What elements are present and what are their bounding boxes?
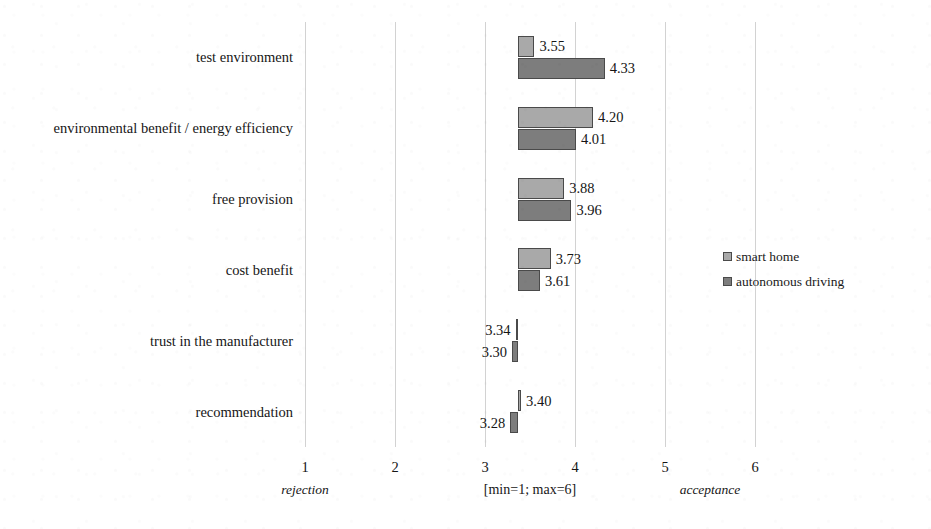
value-label: 3.40 — [526, 394, 551, 409]
bar-autonomous-driving — [518, 129, 576, 150]
legend-swatch-icon — [723, 277, 732, 286]
x-tick-label: 2 — [370, 460, 420, 475]
value-label: 3.73 — [556, 252, 581, 267]
bar-smart-home — [518, 36, 534, 57]
value-label: 3.61 — [545, 274, 570, 289]
x-tick-label: 6 — [730, 460, 780, 475]
value-label: 3.96 — [576, 203, 601, 218]
bar-autonomous-driving — [510, 412, 518, 433]
axis-anchor-rejection: rejection — [245, 483, 365, 497]
legend-label: smart home — [736, 250, 799, 264]
x-tick-label: 4 — [550, 460, 600, 475]
value-label: 4.20 — [598, 110, 623, 125]
axis-range-note: [min=1; max=6] — [440, 483, 620, 497]
bar-autonomous-driving — [518, 200, 571, 221]
gridline-3 — [485, 22, 486, 447]
bar-smart-home — [518, 248, 550, 269]
gridline-2 — [395, 22, 396, 447]
axis-anchor-acceptance: acceptance — [650, 483, 770, 497]
bar-autonomous-driving — [512, 341, 518, 362]
gridline-1 — [305, 22, 306, 447]
chart-legend: smart homeautonomous driving — [723, 250, 844, 299]
value-label: 3.55 — [540, 39, 565, 54]
category-label: environmental benefit / energy efficienc… — [0, 121, 293, 136]
category-label: cost benefit — [0, 263, 293, 278]
bar-smart-home — [518, 107, 593, 128]
value-label: 4.33 — [610, 61, 635, 76]
gridline-4 — [575, 22, 576, 447]
legend-label: autonomous driving — [736, 275, 844, 289]
x-tick-label: 5 — [640, 460, 690, 475]
bar-autonomous-driving — [518, 58, 604, 79]
category-label: free provision — [0, 192, 293, 207]
gridline-5 — [665, 22, 666, 447]
value-label: 3.30 — [0, 345, 507, 360]
legend-swatch-icon — [723, 252, 732, 261]
legend-item[interactable]: smart home — [723, 250, 844, 264]
gridline-6 — [755, 22, 756, 447]
value-label: 3.34 — [0, 323, 511, 338]
x-tick-label: 3 — [460, 460, 510, 475]
bar-smart-home — [518, 178, 564, 199]
category-label: test environment — [0, 50, 293, 65]
legend-item[interactable]: autonomous driving — [723, 275, 844, 289]
x-tick-label: 1 — [280, 460, 330, 475]
bar-smart-home — [516, 319, 519, 340]
value-label: 3.28 — [0, 416, 505, 431]
value-label: 3.88 — [569, 181, 594, 196]
bar-smart-home — [518, 390, 521, 411]
value-label: 4.01 — [581, 132, 606, 147]
bar-autonomous-driving — [518, 270, 540, 291]
